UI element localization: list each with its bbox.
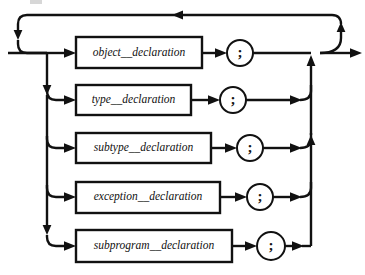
loop-back-up-arrowhead xyxy=(337,22,346,32)
label-type-declaration: type__declaration xyxy=(92,93,176,106)
railroad-diagram: object__declaration ; type__declaration … xyxy=(0,0,365,275)
loop-back-left-arrowhead xyxy=(172,11,183,20)
railroad-svg: object__declaration ; type__declaration … xyxy=(0,0,365,275)
row-2-branch-curve xyxy=(47,88,66,100)
row-4-in-arrowhead xyxy=(64,192,76,202)
row-4-mid-arrowhead xyxy=(235,192,247,202)
row-2-in-arrowhead xyxy=(64,95,76,105)
row-1-in-arrowhead xyxy=(64,48,76,58)
row-3-in-arrowhead xyxy=(64,143,76,153)
loop-back-left-arc xyxy=(18,15,27,30)
left-bus-arrow-2 xyxy=(43,225,52,235)
scan-smudge xyxy=(30,0,42,4)
label-subprogram-declaration: subprogram__declaration xyxy=(94,239,215,252)
loop-back-down-arrowhead xyxy=(14,30,23,40)
semicolon-glyph-4: ; xyxy=(258,188,263,204)
row-5-mid-arrowhead xyxy=(245,241,257,251)
row-1-mid-arrowhead xyxy=(215,48,227,58)
row-4-branch-curve xyxy=(47,185,66,197)
row-2-merge-curve xyxy=(300,85,311,100)
left-bus-to-row-5 xyxy=(47,235,66,246)
loop-back-right-arc-top xyxy=(332,15,341,24)
label-exception-declaration: exception__declaration xyxy=(94,190,203,203)
label-subtype-declaration: subtype__declaration xyxy=(94,141,194,154)
label-object-declaration: object__declaration xyxy=(93,46,186,59)
row-4-merge-curve xyxy=(300,182,311,197)
row-3-branch-curve xyxy=(47,136,66,148)
semicolon-glyph-1: ; xyxy=(238,44,243,60)
exit-arrowhead xyxy=(350,48,362,58)
semicolon-glyph-3: ; xyxy=(248,139,253,155)
semicolon-glyph-2: ; xyxy=(231,91,236,107)
right-bus-arrow-top xyxy=(307,55,316,66)
row-5-in-arrowhead xyxy=(64,241,76,251)
row-3-mid-arrowhead xyxy=(225,143,237,153)
semicolon-glyph-5: ; xyxy=(269,237,274,253)
loop-back-left-arc-lower xyxy=(18,40,47,53)
row-2-mid-arrowhead xyxy=(208,95,220,105)
loop-back-right-arc xyxy=(320,30,341,53)
